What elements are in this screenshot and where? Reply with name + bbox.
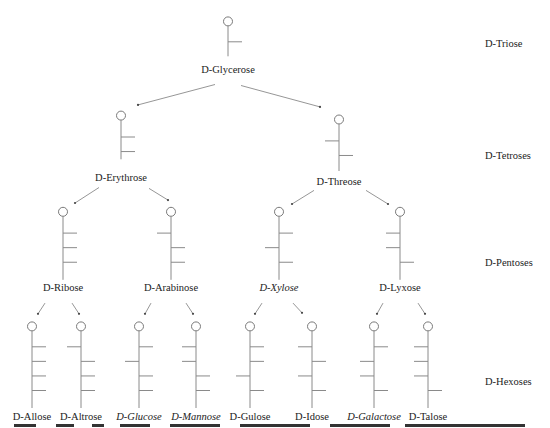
aldehyde-group-icon [308, 322, 317, 331]
level-labels-layer: D-TrioseD-TetrosesD-PentosesD-Hexoses [485, 38, 533, 387]
arrowhead-icon [387, 203, 389, 205]
arrows-layer [37, 85, 426, 315]
sugar-name-label: D-Altrose [60, 411, 102, 422]
arrowhead-icon [74, 202, 76, 204]
aldehyde-group-icon [77, 322, 86, 331]
level-label-hexoses: D-Hexoses [485, 376, 532, 387]
arrow-arabinose-to-mannose [186, 303, 194, 315]
sugar-mannose: D-Mannose [170, 322, 221, 422]
aldehyde-group-icon [396, 207, 405, 216]
arrow-xylose-to-idose [293, 303, 303, 314]
aldehyde-group-icon [59, 207, 68, 216]
sugar-name-label: D-Glycerose [201, 64, 255, 75]
arrow-glycerose-to-erythrose [137, 85, 215, 107]
sugar-name-label: D-Galactose [346, 411, 401, 422]
sugar-allose: D-Allose [13, 322, 52, 422]
arrow-erythrose-to-ribose [74, 188, 99, 205]
arrow-xylose-to-gulose [254, 303, 262, 315]
level-label-tetroses: D-Tetroses [485, 150, 531, 161]
aldehyde-group-icon [335, 115, 344, 124]
arrowhead-icon [167, 199, 169, 201]
arrowhead-icon [376, 313, 378, 315]
arrow-threose-to-lyxose [366, 190, 389, 205]
arrowhead-icon [78, 313, 80, 315]
arrowhead-icon [254, 313, 256, 315]
sugar-ribose: D-Ribose [43, 207, 84, 293]
sugar-arabinose: D-Arabinose [144, 207, 199, 293]
sugar-altrose: D-Altrose [60, 322, 102, 422]
arrow-erythrose-to-arabinose [149, 188, 169, 201]
arrowhead-icon [424, 313, 426, 315]
sugar-threose: D-Threose [317, 115, 362, 187]
arrow-arabinose-to-glucose [144, 303, 151, 315]
sugar-name-label: D-Xylose [258, 282, 298, 293]
aldehyde-group-icon [28, 322, 37, 331]
sugar-name-label: D-Mannose [170, 411, 221, 422]
arrowhead-icon [291, 203, 293, 205]
aldehyde-group-icon [135, 322, 144, 331]
arrowhead-icon [192, 313, 194, 315]
level-label-pentoses: D-Pentoses [485, 257, 533, 268]
sugar-name-label: D-Allose [13, 411, 52, 422]
arrowhead-icon [137, 104, 139, 106]
sugar-name-label: D-Erythrose [95, 172, 147, 183]
arrow-ribose-to-altrose [72, 303, 80, 315]
sugar-erythrose: D-Erythrose [95, 111, 147, 183]
sugar-name-label: D-Ribose [43, 282, 84, 293]
sugar-name-label: D-Glucose [115, 411, 162, 422]
aldose-family-tree-diagram: D-GlyceroseD-ErythroseD-ThreoseD-RiboseD… [0, 0, 550, 428]
arrowhead-icon [37, 313, 39, 315]
sugar-name-label: D-Idose [295, 411, 329, 422]
sugar-gulose: D-Gulose [230, 322, 271, 422]
arrow-glycerose-to-threose [241, 86, 321, 109]
sugar-name-label: D-Arabinose [144, 282, 199, 293]
sugar-name-label: D-Threose [317, 176, 362, 187]
sugar-name-label: D-Talose [409, 411, 448, 422]
sugar-glucose: D-Glucose [115, 322, 162, 422]
arrow-ribose-to-allose [37, 303, 45, 315]
arrow-threose-to-xylose [291, 190, 314, 205]
figure-caption-clipped [0, 424, 550, 428]
sugar-galactose: D-Galactose [346, 322, 401, 422]
aldehyde-group-icon [246, 322, 255, 331]
aldehyde-group-icon [192, 322, 201, 331]
sugar-name-label: D-Lyxose [379, 282, 421, 293]
aldehyde-group-icon [117, 111, 126, 120]
aldehyde-group-icon [424, 322, 433, 331]
sugar-xylose: D-Xylose [258, 207, 298, 293]
sugar-idose: D-Idose [295, 322, 329, 422]
structures-layer: D-GlyceroseD-ErythroseD-ThreoseD-RiboseD… [13, 17, 448, 422]
arrowhead-icon [319, 106, 321, 108]
aldehyde-group-icon [224, 17, 233, 26]
level-label-triose: D-Triose [485, 38, 523, 49]
sugar-talose: D-Talose [409, 322, 448, 422]
arrow-lyxose-to-galactose [376, 303, 383, 315]
aldehyde-group-icon [167, 207, 176, 216]
arrowhead-icon [144, 313, 146, 315]
aldehyde-group-icon [370, 322, 379, 331]
arrowhead-icon [301, 312, 303, 314]
arrow-lyxose-to-talose [418, 303, 426, 315]
aldehyde-group-icon [275, 207, 284, 216]
sugar-lyxose: D-Lyxose [379, 207, 421, 293]
sugar-name-label: D-Gulose [230, 411, 271, 422]
sugar-glycerose: D-Glycerose [201, 17, 255, 75]
